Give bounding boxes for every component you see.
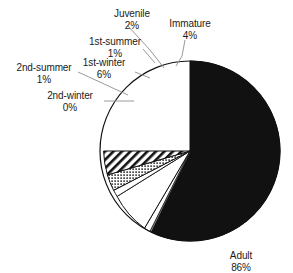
- pie-label-immature-name: Immature: [160, 18, 220, 30]
- pie-label-juvenile-percent: 2%: [104, 20, 160, 32]
- pie-label-juvenile-name: Juvenile: [104, 8, 160, 20]
- pie-label-adult: Adult 86%: [216, 250, 266, 273]
- pie-label-1st-summer-name: 1st-summer: [80, 36, 150, 48]
- pie-label-immature: Immature 4%: [160, 18, 220, 41]
- pie-label-2nd-summer-percent: 1%: [6, 74, 82, 86]
- pie-label-2nd-winter-name: 2nd-winter: [32, 90, 108, 102]
- pie-label-2nd-summer: 2nd-summer 1%: [6, 62, 82, 85]
- pie-chart: Juvenile 2% Immature 4% 1st-summer 1% 1s…: [0, 0, 293, 273]
- pie-label-2nd-summer-name: 2nd-summer: [6, 62, 82, 74]
- leader-line-1st-winter: [135, 72, 150, 78]
- pie-label-immature-percent: 4%: [160, 30, 220, 42]
- pie-label-2nd-winter-percent: 0%: [32, 102, 108, 114]
- pie-label-1st-summer: 1st-summer 1%: [80, 36, 150, 59]
- pie-label-juvenile: Juvenile 2%: [104, 8, 160, 31]
- pie-label-adult-percent: 86%: [216, 262, 266, 273]
- pie-label-2nd-winter: 2nd-winter 0%: [32, 90, 108, 113]
- pie-label-adult-name: Adult: [216, 250, 266, 262]
